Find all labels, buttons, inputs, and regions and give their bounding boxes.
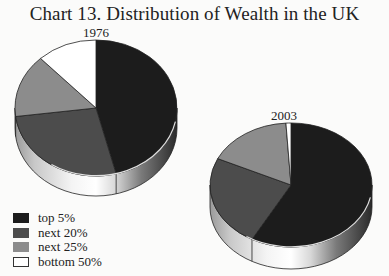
legend-swatch-bottom-50 [13,257,29,267]
pie-1976 [15,40,177,196]
legend-item-top-5: top 5% [13,211,102,226]
legend-label: bottom 50% [38,254,102,270]
pie-2003 [210,123,372,269]
legend-swatch-next-25 [13,242,29,252]
legend-item-next-20: next 20% [13,226,102,241]
legend-item-bottom-50: bottom 50% [13,255,102,270]
legend-item-next-25: next 25% [13,240,102,255]
legend-swatch-top-5 [13,213,29,223]
legend: top 5% next 20% next 25% bottom 50% [13,211,102,269]
legend-swatch-next-20 [13,228,29,238]
